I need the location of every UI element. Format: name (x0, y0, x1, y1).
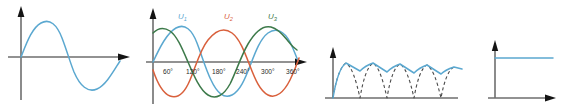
panel2-series-label-u1-sub: 1 (184, 16, 187, 22)
panel2-tick-label-120: 120° (186, 68, 200, 75)
figure-canvas: 60° 120° 180° 240° 300° 360° U1 U2 U3 (0, 0, 563, 108)
panel2-tick-label-180: 180° (212, 68, 226, 75)
panel2-tick-label-360: 360° (286, 68, 300, 75)
waveform-figure: 60° 120° 180° 240° 300° 360° U1 U2 U3 (0, 0, 563, 108)
panel2-tick-label-300: 300° (261, 68, 275, 75)
panel2-tick-label-240: 240° (236, 68, 250, 75)
panel2-tick-label-60: 60° (163, 68, 173, 75)
